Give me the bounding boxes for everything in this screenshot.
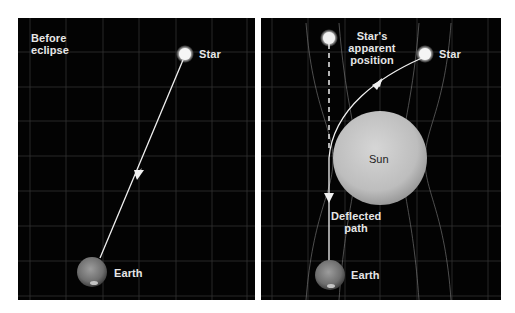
title-line-2: eclipse (31, 44, 69, 56)
grid (18, 18, 255, 300)
before-eclipse-panel: Before eclipse Star Earth (18, 18, 255, 300)
before-eclipse-title: Before eclipse (31, 32, 69, 56)
apparent-position-label: Star's apparent position (342, 30, 402, 66)
earth-label: Earth (351, 269, 380, 281)
star-label: Star (199, 48, 221, 60)
before-eclipse-graphic (18, 18, 255, 300)
apparent-line-1: Star's (342, 30, 402, 42)
deflected-line-2: path (331, 222, 381, 234)
during-eclipse-panel: Star's apparent position Star Sun Deflec… (261, 18, 501, 300)
apparent-line-3: position (342, 54, 402, 66)
sun-label: Sun (369, 153, 389, 165)
star-label: Star (439, 48, 461, 60)
earth-label: Earth (114, 267, 143, 279)
deflected-line-1: Deflected (331, 210, 381, 222)
title-line-1: Before (31, 32, 69, 44)
apparent-line-2: apparent (342, 42, 402, 54)
deflected-path-label: Deflected path (331, 210, 381, 234)
light-ray (100, 60, 183, 258)
